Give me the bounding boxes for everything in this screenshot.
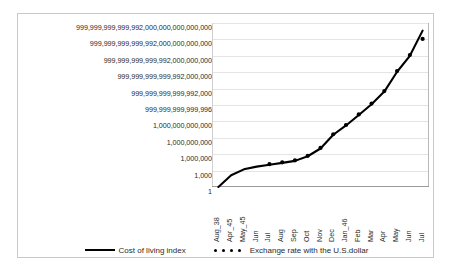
data-point [344, 123, 348, 127]
data-point [369, 102, 373, 106]
data-point [318, 146, 322, 150]
chart-frame: 999,999,999,999,992,000,000,000,000,0009… [17, 13, 434, 258]
x-axis-tick: Apr [384, 192, 385, 242]
x-axis-tick: May [397, 192, 398, 242]
legend-entry-exchange-rate[interactable]: Exchange rate with the U.S.dollar [212, 246, 369, 255]
x-axis-tick-label: Nov [316, 229, 324, 242]
data-point [331, 132, 335, 136]
series-line-cost-of-living [218, 31, 422, 187]
x-axis-tick: Aug [282, 192, 283, 242]
x-axis-tick-label: Feb [354, 230, 362, 242]
legend-dots-icon [212, 246, 246, 254]
legend-label-exchange-rate: Exchange rate with the U.S.dollar [250, 246, 369, 255]
x-axis-tick: Jul [269, 192, 270, 242]
y-axis-tick-label: 999,999,999,999,996 [18, 106, 212, 114]
y-axis-tick-label: 999,999,999,999,992,000,000,000 [18, 57, 212, 65]
series-plot [212, 23, 429, 187]
y-axis-tick-label: 999,999,999,999,992,000,000,000,000,000 [18, 24, 212, 32]
legend-line-icon [85, 249, 115, 252]
x-axis-tick-label: Jul [264, 233, 272, 242]
y-axis-tick-label: 1,000,000,000,000 [18, 122, 212, 130]
y-axis-tick-label: 1,000 [18, 172, 212, 180]
data-point [306, 154, 310, 158]
data-point [267, 162, 271, 166]
y-axis-tick-label: 1,000,000,000 [18, 139, 212, 147]
data-point [395, 69, 399, 73]
x-axis-tick: Nov [321, 192, 322, 242]
x-axis-tick: Jan_46 [346, 192, 347, 242]
x-axis-tick-label: Jun [252, 230, 260, 242]
y-axis-tick-label: 1 [18, 188, 212, 196]
x-axis-tick: Aug_38 [218, 192, 219, 242]
x-axis-tick-label: Aug [277, 229, 285, 242]
data-point [280, 160, 284, 164]
x-axis-tick: Jun [257, 192, 258, 242]
x-axis-tick-label: May [392, 228, 400, 242]
y-axis-tick-label: 999,999,999,999,992,000,000,000,000 [18, 40, 212, 48]
x-axis-tick: Dec [333, 192, 334, 242]
x-axis-tick: Jun [410, 192, 411, 242]
x-axis-tick-label: Aug_38 [213, 217, 221, 242]
x-axis-tick: Oct [308, 192, 309, 242]
data-point [357, 112, 361, 116]
chart-legend: Cost of living index Exchange rate with … [18, 242, 435, 258]
x-axis-tick-label: Jan_46 [341, 218, 349, 242]
y-axis-tick-label: 999,999,999,999,992,000,000 [18, 73, 212, 81]
data-point [421, 37, 425, 41]
x-axis-tick: May_45 [244, 192, 245, 242]
series-markers-exchange-rate [267, 37, 424, 166]
x-axis-tick-label: Oct [303, 231, 311, 242]
data-point [382, 89, 386, 93]
x-axis-tick-label: May_45 [239, 216, 247, 242]
x-axis-tick: Mar [372, 192, 373, 242]
x-axis-labels: Aug_38Apr_45May_45JunJulAugSepOctNovDecJ… [212, 190, 429, 242]
data-point [293, 158, 297, 162]
x-axis-tick-label: Jul [418, 233, 426, 242]
x-axis-tick-label: Apr [379, 231, 387, 242]
data-point [408, 53, 412, 57]
x-axis-tick: Feb [359, 192, 360, 242]
x-axis-tick-label: Dec [328, 229, 336, 242]
x-axis-tick: Sep [295, 192, 296, 242]
legend-entry-cost-of-living[interactable]: Cost of living index [85, 246, 186, 255]
y-axis-tick-label: 999,999,999,999,992,000 [18, 90, 212, 98]
x-axis-tick-label: Jun [405, 230, 413, 242]
legend-label-cost-of-living: Cost of living index [119, 246, 186, 255]
x-axis-tick: Apr_45 [231, 192, 232, 242]
y-axis-labels: 999,999,999,999,992,000,000,000,000,0009… [18, 19, 212, 189]
plot-area [212, 23, 429, 187]
x-axis-tick-label: Mar [367, 230, 375, 242]
y-axis-tick-label: 1,000,000 [18, 155, 212, 163]
x-axis-tick-label: Sep [290, 229, 298, 242]
x-axis-tick-label: Apr_45 [226, 219, 234, 242]
x-axis-tick: Jul [423, 192, 424, 242]
